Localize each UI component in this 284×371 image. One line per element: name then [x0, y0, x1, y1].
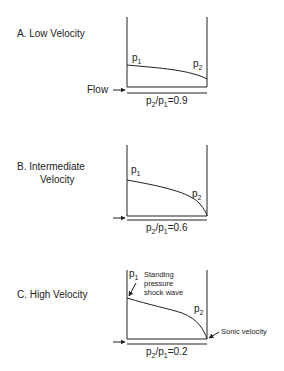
annotation-sonic-velocity: Sonic velocity	[221, 327, 267, 336]
panel-c-p1-label: p1	[129, 268, 138, 281]
ratio-value: =0.9	[168, 95, 188, 106]
panel-b-p1-label: p1	[131, 164, 140, 177]
p1-subscript: 1	[135, 274, 139, 281]
panel-a-flow-label: Flow	[87, 84, 108, 95]
annotation-standing: Standing	[144, 270, 174, 279]
diagram-canvas	[0, 0, 284, 371]
p2-subscript: 2	[199, 64, 203, 71]
ratio-value: =0.6	[168, 222, 188, 233]
panel-b-title-line1: B. Intermediate	[17, 161, 85, 172]
panel-a-ratio: p2/p1=0.9	[146, 95, 187, 108]
annotation-pressure: pressure	[144, 279, 173, 288]
panel-a-p2-label: p2	[193, 58, 202, 71]
panel-c-ratio: p2/p1=0.2	[146, 346, 187, 359]
annotation-shock-wave: shock wave	[144, 288, 183, 297]
ratio-mid: /p	[155, 222, 163, 233]
p1-subscript: 1	[138, 58, 142, 65]
panel-b-graph	[113, 145, 207, 220]
ratio-mid: /p	[155, 95, 163, 106]
ratio-mid: /p	[155, 346, 163, 357]
p1-subscript: 1	[137, 170, 141, 177]
panel-c-title: C. High Velocity	[17, 289, 88, 300]
p2-subscript: 2	[198, 194, 202, 201]
ratio-value: =0.2	[168, 346, 188, 357]
p2-subscript: 2	[200, 309, 204, 316]
sonic-velocity-pointer	[209, 332, 219, 338]
shock-wave-pointer	[129, 283, 136, 296]
panel-b-ratio: p2/p1=0.6	[146, 222, 187, 235]
panel-c-p2-label: p2	[194, 303, 203, 316]
panel-a-title: A. Low Velocity	[17, 28, 85, 39]
panel-a-graph	[113, 17, 207, 93]
panel-b-p2-label: p2	[192, 188, 201, 201]
panel-b-title-line2: Velocity	[40, 174, 74, 185]
panel-a-p1-label: p1	[132, 52, 141, 65]
